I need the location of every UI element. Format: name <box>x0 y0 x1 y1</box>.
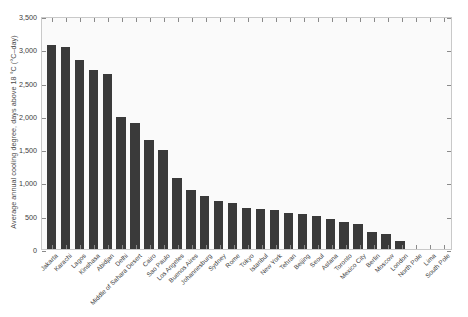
y-axis-tick-mark <box>42 184 46 185</box>
bar-slot[interactable] <box>128 18 142 249</box>
bar[interactable] <box>353 224 362 249</box>
x-axis-tick-mark <box>234 18 235 22</box>
bar-slot[interactable] <box>170 18 184 249</box>
bar[interactable] <box>89 70 98 249</box>
x-axis-tick-mark <box>248 18 249 22</box>
bar[interactable] <box>256 209 265 249</box>
bar-slot[interactable] <box>240 18 254 249</box>
bar[interactable] <box>326 219 335 249</box>
bar[interactable] <box>298 214 307 249</box>
x-axis-tick-mark <box>346 245 347 249</box>
bar[interactable] <box>367 232 376 249</box>
x-axis-tick-mark <box>318 245 319 249</box>
bar-slot[interactable] <box>58 18 72 249</box>
bar[interactable] <box>200 196 209 249</box>
x-axis-tick-mark <box>430 245 431 249</box>
y-axis-tick-label: 500 <box>25 212 37 221</box>
bar[interactable] <box>395 241 404 249</box>
x-axis-tick-mark <box>402 18 403 22</box>
x-axis-tick-mark <box>206 18 207 22</box>
bar-slot[interactable] <box>100 18 114 249</box>
y-axis-tick-mark <box>447 184 451 185</box>
x-axis-tick-mark <box>80 18 81 22</box>
x-axis-tick-mark <box>360 18 361 22</box>
bar[interactable] <box>381 234 390 249</box>
x-axis-tick-mark <box>332 18 333 22</box>
bar-slot[interactable] <box>295 18 309 249</box>
bar-slot[interactable] <box>72 18 86 249</box>
bar[interactable] <box>172 178 181 249</box>
bar-slot[interactable] <box>184 18 198 249</box>
x-axis-tick-mark <box>94 18 95 22</box>
bar-slot[interactable] <box>379 18 393 249</box>
x-axis-tick-mark <box>444 18 445 22</box>
y-axis-tick-mark <box>42 51 46 52</box>
x-axis-tick-labels: JakartaKarachiLagosKinshasaAbidjanDelhiM… <box>41 252 452 317</box>
x-axis-tick-mark <box>178 245 179 249</box>
bar-slot[interactable] <box>393 18 407 249</box>
y-axis-tick-mark <box>447 51 451 52</box>
bar-slot[interactable] <box>268 18 282 249</box>
bar-slot[interactable] <box>407 18 421 249</box>
bar[interactable] <box>75 60 84 249</box>
x-axis-tick-mark <box>402 245 403 249</box>
x-axis-tick-mark <box>52 18 53 22</box>
plot-area <box>41 17 452 250</box>
x-axis-tick-mark <box>374 18 375 22</box>
bar[interactable] <box>47 45 56 249</box>
x-axis-tick-mark <box>346 18 347 22</box>
y-axis-tick-mark <box>447 218 451 219</box>
bar-slot[interactable] <box>281 18 295 249</box>
bar-slot[interactable] <box>337 18 351 249</box>
bar-slot[interactable] <box>86 18 100 249</box>
x-axis-tick-mark <box>374 245 375 249</box>
x-axis-tick-mark <box>360 245 361 249</box>
bar[interactable] <box>144 140 153 249</box>
x-axis-tick-mark <box>318 18 319 22</box>
bar-slot[interactable] <box>323 18 337 249</box>
x-axis-tick-mark <box>178 18 179 22</box>
bar[interactable] <box>186 190 195 249</box>
bar-slot[interactable] <box>421 18 435 249</box>
bar[interactable] <box>61 47 70 249</box>
bar[interactable] <box>312 216 321 249</box>
x-axis-tick-mark <box>66 245 67 249</box>
bar[interactable] <box>228 203 237 249</box>
bar-slot[interactable] <box>309 18 323 249</box>
bar[interactable] <box>116 117 125 249</box>
bar[interactable] <box>103 74 112 249</box>
x-axis-tick-mark <box>136 18 137 22</box>
y-axis-tick-label: 1,500 <box>19 146 37 155</box>
bar-slot[interactable] <box>435 18 449 249</box>
x-axis-tick-mark <box>248 245 249 249</box>
y-axis-tick-mark <box>42 118 46 119</box>
bar[interactable] <box>158 150 167 249</box>
bar[interactable] <box>130 123 139 249</box>
y-axis-tick-mark <box>42 85 46 86</box>
bar-slot[interactable] <box>156 18 170 249</box>
bar[interactable] <box>270 210 279 249</box>
x-axis-tick-mark <box>150 245 151 249</box>
y-axis-tick-label: 1,000 <box>19 179 37 188</box>
bar[interactable] <box>339 222 348 249</box>
x-axis-tick-mark <box>164 245 165 249</box>
bar-slot[interactable] <box>198 18 212 249</box>
x-axis-tick-mark <box>52 245 53 249</box>
bar-slot[interactable] <box>254 18 268 249</box>
y-axis-tick-label: 3,500 <box>19 13 37 22</box>
x-axis-tick-mark <box>262 18 263 22</box>
x-axis-tick-mark <box>304 18 305 22</box>
bar[interactable] <box>284 213 293 249</box>
x-axis-tick-mark <box>430 18 431 22</box>
y-axis-tick-mark <box>447 118 451 119</box>
bar[interactable] <box>214 201 223 249</box>
y-axis-tick-mark <box>42 18 46 19</box>
bar-slot[interactable] <box>365 18 379 249</box>
bar-slot[interactable] <box>142 18 156 249</box>
bar-slot[interactable] <box>226 18 240 249</box>
bar[interactable] <box>242 208 251 249</box>
bar-slot[interactable] <box>351 18 365 249</box>
bar-slot[interactable] <box>114 18 128 249</box>
bar-slot[interactable] <box>45 18 59 249</box>
bar-slot[interactable] <box>212 18 226 249</box>
